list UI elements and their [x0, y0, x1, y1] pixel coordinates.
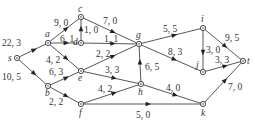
node-center-dot: [202, 71, 204, 73]
node-center-dot: [80, 70, 82, 72]
node-center-dot: [80, 16, 82, 18]
node-label: s: [8, 53, 12, 63]
arrowhead-icon: [201, 50, 206, 56]
arrowhead-icon: [110, 53, 117, 59]
node-center-dot: [16, 57, 18, 59]
node-center-dot: [138, 43, 140, 45]
edge-label: 4, 2: [98, 84, 113, 94]
node-center-dot: [80, 103, 82, 105]
node-center-dot: [202, 27, 204, 29]
edge-label: 9, 0: [54, 18, 69, 28]
node-center-dot: [47, 42, 49, 44]
arrowhead-icon: [111, 75, 117, 81]
node-center-dot: [80, 42, 82, 44]
node-label: t: [247, 56, 250, 66]
node-label: f: [79, 108, 83, 118]
edge-label: 5, 5: [163, 24, 178, 34]
node-label: a: [45, 29, 50, 39]
arrowhead-icon: [31, 46, 38, 53]
edge-label: 9, 5: [225, 33, 240, 43]
arrowhead-icon: [171, 56, 178, 62]
node-label: c: [78, 4, 83, 14]
node-label: i: [201, 14, 204, 24]
edge-label: 22, 3: [2, 38, 21, 48]
flow-network-diagram: 22, 310, 59, 06, 14, 21, 07, 01, 12, 26,…: [0, 0, 255, 124]
arrowhead-icon: [137, 59, 142, 65]
edge-label: 4, 2: [46, 55, 61, 65]
edge-label: 5, 0: [136, 110, 151, 120]
node-center-dot: [202, 103, 204, 105]
node-center-dot: [47, 85, 49, 87]
edge-label: 10, 5: [2, 72, 21, 82]
node-labels-layer: sabcdefghijkt: [8, 4, 250, 118]
edge-label: 1, 0: [84, 25, 99, 35]
edge-label: 1, 1: [104, 34, 119, 44]
edge-label: 6, 5: [145, 62, 160, 72]
arrowhead-icon: [146, 102, 152, 107]
node-center-dot: [242, 60, 244, 62]
edge-label: 2, 2: [96, 49, 111, 59]
edge-label: 4, 0: [166, 83, 181, 93]
node-label: h: [138, 87, 143, 97]
edge-label: 3, 3: [215, 55, 230, 65]
arrowhead-icon: [63, 93, 70, 100]
edge-label: 3, 3: [105, 65, 120, 75]
arrowhead-icon: [63, 74, 70, 80]
edge-label: 6, 3: [49, 67, 64, 77]
edge-label: 8, 3: [168, 47, 183, 57]
node-label: e: [78, 73, 82, 83]
node-center-dot: [140, 83, 142, 85]
edge-label: 2, 2: [49, 97, 64, 107]
node-label: g: [136, 30, 141, 40]
graph-svg: 22, 310, 59, 06, 14, 21, 07, 01, 12, 26,…: [0, 0, 255, 124]
arrowhead-icon: [79, 26, 84, 32]
edge-label: 7, 0: [228, 82, 243, 92]
edge-label: 7, 0: [103, 16, 118, 26]
node-label: d: [73, 37, 78, 47]
node-label: b: [45, 88, 50, 98]
edge-label: 3, 0: [206, 45, 221, 55]
node-label: k: [201, 108, 206, 118]
